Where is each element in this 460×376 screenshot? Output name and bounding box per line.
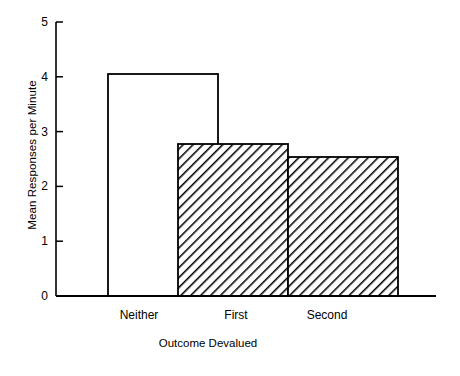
bar-second: [288, 157, 398, 296]
x-axis-title-text: Outcome Devalued: [159, 336, 257, 350]
bar-first: [178, 144, 288, 296]
x-axis-title: Outcome Devalued: [0, 336, 460, 350]
x-tick-label-second: Second: [307, 308, 348, 322]
x-axis-tick-labels: Neither First Second: [0, 308, 460, 326]
bar-chart-figure: Mean Responses per Minute 5 4 3 2 1 0: [0, 0, 460, 376]
y-axis-ticks: [56, 22, 63, 241]
x-tick-label-neither: Neither: [120, 308, 159, 322]
x-tick-label-first: First: [224, 308, 247, 322]
